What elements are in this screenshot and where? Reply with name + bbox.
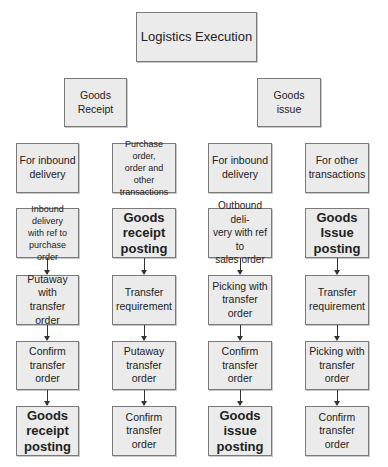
node-label: Logistics Execution	[141, 29, 252, 46]
arrow-down	[144, 390, 145, 405]
node-label: Goods Receipt	[78, 89, 114, 116]
step-node: Outbound deli- very with ref to sales or…	[208, 208, 272, 258]
step-node: Goods receipt posting	[112, 208, 176, 258]
node-label: Confirm transfer order	[319, 411, 356, 452]
column-header-gr-other: Purchase order, order and other transact…	[112, 143, 176, 193]
node-label: For inbound delivery	[212, 154, 268, 181]
arrow-down	[240, 390, 241, 405]
node-label: Confirm transfer order	[126, 411, 163, 452]
arrow-down	[47, 258, 48, 274]
step-node: Confirm transfer order	[112, 406, 176, 456]
root-node-logistics-execution: Logistics Execution	[136, 12, 257, 62]
node-label: Goods Issue posting	[314, 210, 361, 257]
node-label: Goods issue	[274, 89, 305, 116]
column-header-gr-inbound: For inbound delivery	[16, 143, 79, 193]
arrow-down	[240, 325, 241, 340]
arrow-down	[240, 258, 241, 274]
branch-node-goods-receipt: Goods Receipt	[64, 78, 127, 127]
step-node: Picking with transfer order	[208, 275, 272, 325]
step-node: Goods receipt posting	[16, 406, 79, 456]
branch-node-goods-issue: Goods issue	[257, 78, 321, 127]
node-label: Goods receipt posting	[121, 210, 168, 257]
arrow-down	[337, 325, 338, 340]
node-label: Goods issue posting	[217, 408, 264, 455]
node-label: For inbound delivery	[19, 154, 75, 181]
arrow-down	[47, 390, 48, 405]
step-node: Goods Issue posting	[305, 208, 369, 258]
step-node: Transfer requirement	[305, 275, 369, 325]
step-node: Confirm transfer order	[305, 406, 369, 456]
arrow-down	[337, 258, 338, 274]
node-label: Outbound deli- very with ref to sales or…	[211, 199, 269, 267]
node-label: Confirm transfer order	[222, 345, 259, 386]
step-node: Confirm transfer order	[208, 341, 272, 390]
arrow-down	[337, 390, 338, 405]
node-label: Putaway with transfer order	[19, 273, 76, 328]
step-node: Inbound delivery with ref to purchase or…	[16, 208, 79, 258]
arrow-down	[144, 325, 145, 340]
step-node: Putaway with transfer order	[16, 275, 79, 325]
node-label: Transfer requirement	[309, 286, 365, 313]
node-label: Picking with transfer order	[308, 345, 366, 386]
step-node: Putaway transfer order	[112, 341, 176, 390]
node-label: Transfer requirement	[116, 286, 172, 313]
step-node: Goods issue posting	[208, 406, 272, 456]
column-header-gi-other: For other transactions	[305, 143, 369, 193]
node-label: Picking with transfer order	[211, 280, 269, 321]
arrow-down	[47, 325, 48, 340]
step-node: Transfer requirement	[112, 275, 176, 325]
column-header-gi-inbound: For inbound delivery	[208, 143, 272, 193]
node-label: For other transactions	[309, 154, 366, 181]
node-label: Putaway transfer order	[124, 345, 164, 386]
node-label: Inbound delivery with ref to purchase or…	[19, 203, 76, 264]
node-label: Purchase order, order and other transact…	[115, 138, 173, 199]
step-node: Confirm transfer order	[16, 341, 79, 390]
step-node: Picking with transfer order	[305, 341, 369, 390]
node-label: Goods receipt posting	[24, 408, 71, 455]
node-label: Confirm transfer order	[29, 345, 66, 386]
arrow-down	[144, 258, 145, 274]
